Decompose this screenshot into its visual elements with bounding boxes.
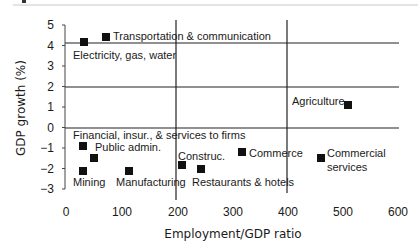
marker-commerce (238, 148, 246, 156)
marker-financial (79, 142, 87, 150)
label-financial: Financial, insur., & services to firms (73, 129, 246, 141)
label-public-admin: Public admin. (95, 141, 161, 153)
y-tick: −1 (40, 141, 54, 155)
y-tick: 0 (47, 121, 54, 135)
label-restaurants: Restaurants & hotels (192, 176, 295, 188)
x-tick-labels: 0 100 200 300 400 500 600 (63, 205, 409, 219)
x-tick: 200 (168, 205, 188, 219)
label-transport: Transportation & communication (113, 30, 271, 42)
y-tick: 3 (47, 59, 54, 73)
scatter-chart: 5 4 3 2 1 0 −1 −2 −3 0 100 200 300 400 5… (0, 0, 418, 252)
y-tick: −3 (40, 182, 54, 196)
marker-transport (102, 33, 110, 41)
x-tick: 100 (112, 205, 132, 219)
x-tick: 300 (223, 205, 243, 219)
marker-agriculture (344, 101, 352, 109)
reference-lines (65, 20, 399, 200)
y-axis-title: GDP growth (%) (14, 60, 28, 156)
x-tick: 500 (333, 205, 353, 219)
marker-mining (79, 167, 87, 175)
marker-manufacturing (125, 167, 133, 175)
y-tick-labels: 5 4 3 2 1 0 −1 −2 −3 (40, 18, 54, 196)
y-tick: 5 (47, 18, 54, 32)
marker-commercial-services (317, 154, 325, 162)
x-tick: 600 (388, 205, 408, 219)
y-axis (62, 25, 65, 189)
top-left-fragment (22, 0, 26, 3)
label-commerce: Commerce (249, 147, 303, 159)
x-tick: 0 (63, 205, 70, 219)
label-agriculture: Agriculture (292, 95, 345, 107)
point-labels: Transportation & communication Electrici… (73, 30, 386, 188)
marker-electricity (80, 38, 88, 46)
marker-restaurants (197, 165, 205, 173)
marker-public-admin (90, 154, 98, 162)
x-axis-title: Employment/GDP ratio (164, 227, 301, 241)
y-tick: −2 (40, 162, 54, 176)
label-electricity: Electricity, gas, water (73, 49, 176, 61)
y-tick: 2 (47, 80, 54, 94)
marker-construc (178, 161, 186, 169)
x-tick: 400 (278, 205, 298, 219)
label-commercial-line1: Commercial (327, 147, 386, 159)
label-manufacturing: Manufacturing (116, 176, 186, 188)
y-tick: 1 (47, 100, 54, 114)
label-construc: Construc. (178, 150, 225, 162)
label-mining: Mining (73, 176, 105, 188)
label-commercial-line2: services (327, 161, 368, 173)
y-tick: 4 (47, 39, 54, 53)
